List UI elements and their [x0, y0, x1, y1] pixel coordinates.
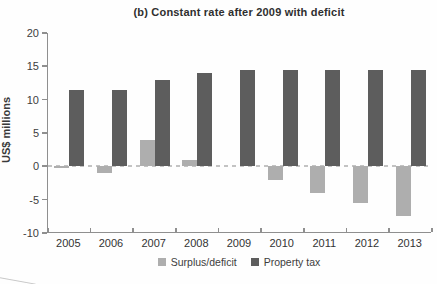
x-tick-label-2007: 2007 — [134, 237, 174, 249]
legend-label-property: Property tax — [264, 256, 321, 268]
bar-surplus-deficit-2011 — [310, 166, 325, 193]
legend-item-property: Property tax — [251, 256, 321, 268]
y-tick-mark — [42, 99, 47, 101]
bar-property-tax-2011 — [325, 70, 340, 167]
bar-surplus-deficit-2013 — [396, 166, 411, 216]
y-tick-label-5: 5 — [9, 127, 39, 139]
x-tick-mark — [175, 228, 177, 232]
bar-property-tax-2008 — [197, 73, 212, 166]
bar-surplus-deficit-2007 — [140, 140, 155, 167]
y-tick-mark — [42, 65, 47, 67]
legend: Surplus/deficit Property tax — [47, 256, 431, 268]
plot-area — [47, 33, 431, 233]
x-tick-mark — [218, 228, 220, 232]
chart-figure: (b) Constant rate after 2009 with defici… — [0, 0, 437, 284]
y-tick-label-0: 0 — [9, 160, 39, 172]
x-tick-mark — [132, 228, 134, 232]
surplus-swatch-icon — [158, 258, 166, 266]
x-tick-mark — [388, 228, 390, 232]
y-tick-label--10: -10 — [9, 227, 39, 239]
chart-title: (b) Constant rate after 2009 with defici… — [47, 6, 431, 18]
bar-surplus-deficit-2012 — [353, 166, 368, 203]
bar-property-tax-2009 — [240, 70, 255, 167]
x-tick-label-2010: 2010 — [262, 237, 302, 249]
x-tick-mark — [260, 228, 262, 232]
bar-property-tax-2006 — [112, 90, 127, 167]
bar-surplus-deficit-2006 — [97, 166, 112, 173]
x-tick-label-2008: 2008 — [176, 237, 216, 249]
x-tick-label-2013: 2013 — [390, 237, 430, 249]
y-tick-label--5: -5 — [9, 194, 39, 206]
x-tick-mark — [47, 228, 49, 232]
x-tick-mark — [303, 228, 305, 232]
legend-item-surplus: Surplus/deficit — [158, 256, 237, 268]
bar-property-tax-2010 — [283, 70, 298, 167]
y-tick-mark — [42, 132, 47, 134]
property-tax-swatch-icon — [251, 258, 259, 266]
bar-property-tax-2013 — [411, 70, 426, 167]
bar-property-tax-2007 — [155, 80, 170, 167]
x-tick-label-2009: 2009 — [219, 237, 259, 249]
x-tick-label-2005: 2005 — [48, 237, 88, 249]
scan-edge-artifact — [0, 276, 36, 284]
x-tick-label-2011: 2011 — [304, 237, 344, 249]
bar-surplus-deficit-2010 — [268, 166, 283, 179]
bar-property-tax-2005 — [69, 90, 84, 167]
y-tick-label-15: 15 — [9, 60, 39, 72]
bar-surplus-deficit-2005 — [54, 166, 69, 168]
x-tick-mark — [346, 228, 348, 232]
y-tick-label-10: 10 — [9, 94, 39, 106]
y-tick-mark — [42, 232, 47, 234]
x-tick-mark — [431, 228, 433, 232]
y-tick-label-20: 20 — [9, 27, 39, 39]
x-tick-label-2012: 2012 — [347, 237, 387, 249]
bar-surplus-deficit-2008 — [182, 160, 197, 167]
bar-property-tax-2012 — [368, 70, 383, 167]
x-tick-label-2006: 2006 — [91, 237, 131, 249]
y-tick-mark — [42, 165, 47, 167]
x-tick-mark — [90, 228, 92, 232]
y-tick-mark — [42, 199, 47, 201]
legend-label-surplus: Surplus/deficit — [171, 256, 237, 268]
y-tick-mark — [42, 32, 47, 34]
